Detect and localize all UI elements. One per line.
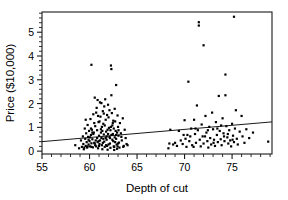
data-point [180, 139, 182, 141]
data-point [90, 146, 92, 148]
data-point [202, 142, 204, 144]
data-point [126, 144, 128, 146]
data-point [188, 140, 190, 142]
data-point [240, 115, 242, 117]
data-point [103, 133, 105, 135]
y-tick-label: 5 [28, 26, 34, 38]
data-point [106, 114, 108, 116]
data-point [87, 143, 89, 145]
data-point [172, 143, 174, 145]
data-point [213, 139, 215, 141]
data-point [104, 124, 106, 126]
data-point [80, 139, 82, 141]
data-point [183, 119, 185, 121]
data-point [231, 139, 233, 141]
data-point [94, 97, 96, 99]
data-point [109, 137, 111, 139]
data-point [110, 68, 112, 70]
x-tick-label: 75 [226, 161, 238, 173]
data-point [82, 135, 84, 137]
data-point [86, 141, 88, 143]
data-point [110, 64, 112, 66]
data-point [239, 131, 241, 133]
data-point [105, 131, 107, 133]
data-point [237, 143, 239, 145]
y-tick-label: 1 [28, 121, 34, 133]
data-point [119, 122, 121, 124]
data-point [211, 112, 213, 114]
data-point [109, 147, 111, 149]
data-point [114, 141, 116, 143]
data-point [223, 135, 225, 137]
data-point [200, 145, 202, 147]
data-point [243, 142, 245, 144]
data-point [111, 112, 113, 114]
data-point [109, 129, 111, 131]
data-point [101, 144, 103, 146]
data-point [187, 81, 189, 83]
data-point [234, 127, 236, 129]
data-point [226, 136, 228, 138]
data-point [227, 142, 229, 144]
data-point [122, 117, 124, 119]
x-tick-label: 60 [84, 161, 96, 173]
data-point [87, 145, 89, 147]
y-tick-label: 2 [28, 98, 34, 110]
data-point [96, 107, 98, 109]
data-point [228, 129, 230, 131]
data-point [98, 145, 100, 147]
data-point [218, 95, 220, 97]
data-point [115, 84, 117, 86]
data-point [252, 131, 254, 133]
scatter-plot-figure: 5560657075 012345 Depth of cut Price ($1… [0, 0, 288, 200]
data-point [84, 127, 86, 129]
data-point [212, 142, 214, 144]
data-point [233, 16, 235, 18]
data-point [167, 147, 169, 149]
data-point [111, 139, 113, 141]
data-point [198, 21, 200, 23]
data-point [230, 145, 232, 147]
data-point [196, 104, 198, 106]
data-point [105, 119, 107, 121]
data-point [116, 148, 118, 150]
data-point [116, 145, 118, 147]
data-point [97, 147, 99, 149]
data-point [81, 146, 83, 148]
data-point [103, 112, 105, 114]
data-point [78, 147, 80, 149]
data-point [121, 139, 123, 141]
data-point [101, 130, 103, 132]
data-point [100, 137, 102, 139]
data-point [124, 129, 126, 131]
data-point [223, 140, 225, 142]
data-point [89, 118, 91, 120]
x-axis-ticks [42, 154, 270, 159]
data-point [112, 122, 114, 124]
data-point [116, 114, 118, 116]
data-point [215, 121, 217, 123]
data-point [248, 137, 250, 139]
data-point [204, 135, 206, 137]
data-point [229, 139, 231, 141]
data-point [94, 125, 96, 127]
y-tick-label: 3 [28, 74, 34, 86]
data-point [114, 120, 116, 122]
data-point [183, 134, 185, 136]
data-point [113, 149, 115, 151]
data-point [202, 135, 204, 137]
data-point [106, 149, 108, 151]
data-point [219, 130, 221, 132]
data-point [120, 132, 122, 134]
y-axis-ticks [37, 13, 42, 151]
data-point [87, 139, 89, 141]
data-point [102, 110, 104, 112]
data-point [195, 142, 197, 144]
plot-frame [42, 12, 272, 154]
data-point [235, 109, 237, 111]
data-point [101, 126, 103, 128]
data-point [95, 139, 97, 141]
data-point [216, 134, 218, 136]
data-point [108, 127, 110, 129]
data-point [97, 99, 99, 101]
